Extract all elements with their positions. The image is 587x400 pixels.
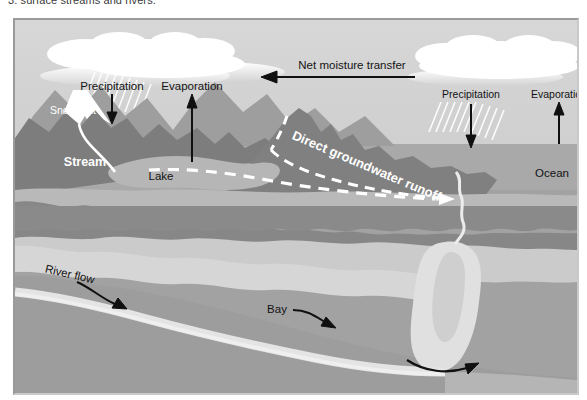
label-evaporation-right: Evaporation bbox=[531, 88, 577, 100]
figure-caption: 3. surface streams and rivers. bbox=[8, 0, 156, 6]
label-lake: Lake bbox=[149, 170, 174, 182]
land-mass-upper-fingers bbox=[15, 206, 577, 231]
hydrologic-cycle-figure: Precipitation Evaporation Snowmelt Strea… bbox=[13, 18, 579, 395]
label-evaporation-left: Evaporation bbox=[161, 80, 222, 92]
label-snowmelt: Snowmelt bbox=[50, 104, 96, 116]
label-ocean: Ocean bbox=[535, 167, 569, 179]
label-stream: Stream bbox=[64, 155, 106, 169]
label-net-moisture-transfer: Net moisture transfer bbox=[298, 59, 406, 71]
label-precipitation-right: Precipitation bbox=[442, 88, 500, 100]
label-bay: Bay bbox=[267, 303, 287, 315]
label-precipitation-left: Precipitation bbox=[80, 80, 143, 92]
diagram-canvas: Precipitation Evaporation Snowmelt Strea… bbox=[15, 20, 577, 393]
